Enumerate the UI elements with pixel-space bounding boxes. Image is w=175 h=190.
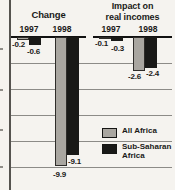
gridline--10 <box>11 167 172 168</box>
value-label-sub_saharan-1997-panel-1: -0.3 <box>111 44 124 53</box>
legend-item-all-africa: All Africa <box>102 127 157 138</box>
bar-all_africa-1998-panel-1 <box>133 37 145 71</box>
value-label-all_africa-1998-panel-1: -2.6 <box>128 72 141 81</box>
panel-title-text-line1: Impact on <box>92 1 173 12</box>
all-africa-swatch <box>102 128 117 138</box>
scan-artifact <box>0 89 3 91</box>
year-label-impact-1997: 1997 <box>95 24 127 34</box>
year-label-change-1998: 1998 <box>46 24 78 34</box>
value-label-all_africa-1998-panel-0: -9.9 <box>53 170 66 179</box>
sub-saharan-africa-swatch <box>102 144 117 154</box>
panel-title-change: Change <box>11 9 86 20</box>
legend-item-sub-saharan-africa: Sub-Saharan Africa <box>102 143 171 160</box>
left-page-rule <box>9 0 11 190</box>
value-label-sub_saharan-1998-panel-1: -2.4 <box>146 69 159 78</box>
panel-title-text-line2: real incomes <box>92 12 173 23</box>
panel-title-text: Change <box>11 9 86 20</box>
value-label-sub_saharan-1997-panel-0: -0.6 <box>27 47 40 56</box>
legend-label-all-africa: All Africa <box>122 127 157 138</box>
scan-artifact <box>0 129 3 131</box>
value-label-sub_saharan-1998-panel-0: -9.1 <box>68 157 81 166</box>
bar-sub_saharan-1997-panel-1 <box>111 37 123 41</box>
scan-artifact <box>0 48 3 50</box>
legend-label-text-line2: Africa <box>122 152 171 161</box>
value-label-all_africa-1997-panel-1: -0.1 <box>95 39 108 48</box>
chart-figure: Change Impact on real incomes 1997 1998 … <box>0 0 175 190</box>
bar-sub_saharan-1998-panel-1 <box>145 37 157 68</box>
value-label-all_africa-1997-panel-0: -0.2 <box>12 40 25 49</box>
year-label-impact-1998: 1998 <box>132 24 164 34</box>
legend-label-text: All Africa <box>122 127 157 136</box>
gridline--4 <box>11 89 172 90</box>
scan-artifact <box>0 166 3 168</box>
legend-label-sub-saharan-africa: Sub-Saharan Africa <box>122 143 171 160</box>
bar-sub_saharan-1998-panel-0 <box>67 37 79 155</box>
bar-sub_saharan-1997-panel-0 <box>29 37 41 45</box>
panel-title-impact: Impact on real incomes <box>92 1 173 22</box>
gridline--6 <box>11 115 172 116</box>
year-label-change-1997: 1997 <box>13 24 45 34</box>
bar-all_africa-1998-panel-0 <box>55 37 67 166</box>
